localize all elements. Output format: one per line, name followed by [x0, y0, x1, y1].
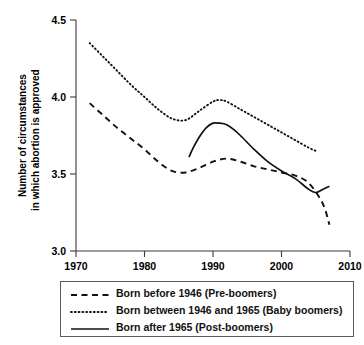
y-axis-title-line-1: Number of circumstances — [17, 74, 28, 197]
legend-item-label: Born before 1946 (Pre-boomers) — [116, 287, 276, 299]
series-line-dashed — [90, 103, 330, 225]
legend: Born before 1946 (Pre-boomers)Born betwe… — [60, 281, 354, 337]
legend-item: Born before 1946 (Pre-boomers) — [70, 284, 353, 301]
legend-item-label: Born between 1946 and 1965 (Baby boomers… — [116, 304, 342, 316]
y-axis-title: Number of circumstances in which abortio… — [17, 69, 41, 211]
x-tick-label: 1970 — [64, 260, 88, 272]
data-series-group — [90, 43, 330, 225]
legend-line-sample-dotted — [70, 304, 110, 316]
series-line-dotted — [90, 43, 316, 151]
legend-item-label: Born after 1965 (Post-boomers) — [116, 321, 273, 333]
legend-item: Born between 1946 and 1965 (Baby boomers… — [70, 301, 353, 318]
legend-item: Born after 1965 (Post-boomers) — [70, 318, 353, 335]
legend-line-sample-solid — [70, 321, 110, 333]
x-tick-label: 2000 — [270, 260, 294, 272]
x-tick-label: 1980 — [133, 260, 157, 272]
x-tick-label: 1990 — [201, 260, 225, 272]
y-axis-title-line-2: in which abortion is approved — [30, 69, 41, 211]
y-tick-label: 4.0 — [51, 91, 66, 103]
abortion-approval-line-chart: 3.03.54.04.5 19701980199020002010 Number… — [0, 0, 364, 345]
x-tick-label: 2010 — [338, 260, 362, 272]
y-tick-label: 4.5 — [51, 14, 66, 26]
y-tick-label: 3.0 — [51, 245, 66, 257]
y-axis-ticks: 3.03.54.04.5 — [51, 14, 76, 257]
series-line-solid — [189, 123, 329, 193]
x-axis-ticks: 19701980199020002010 — [64, 251, 362, 272]
legend-line-sample-dashed — [70, 287, 110, 299]
axes — [76, 20, 350, 251]
legend-items: Born before 1946 (Pre-boomers)Born betwe… — [61, 282, 353, 335]
y-tick-label: 3.5 — [51, 168, 66, 180]
